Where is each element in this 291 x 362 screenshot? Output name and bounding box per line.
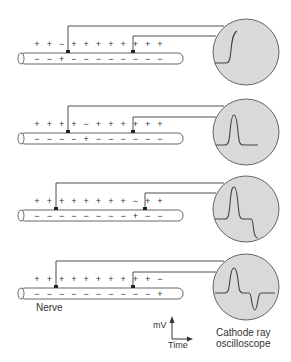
outside-charge: − <box>157 274 162 284</box>
x-axis-arrow-icon <box>187 337 193 342</box>
outside-charge: + <box>84 39 89 49</box>
electrode-1 <box>54 285 58 288</box>
inside-charge: − <box>108 211 113 221</box>
inside-charge: − <box>71 211 76 221</box>
outside-charge: + <box>108 119 113 129</box>
inside-charge: − <box>34 54 39 64</box>
outside-charge: + <box>34 119 39 129</box>
inside-charge: − <box>120 54 125 64</box>
inside-charge: − <box>84 289 89 299</box>
inside-charge: − <box>59 289 64 299</box>
outside-charge: + <box>96 274 101 284</box>
inside-charge: − <box>145 289 150 299</box>
outside-charge: + <box>71 274 76 284</box>
outside-charge: + <box>108 39 113 49</box>
outside-charge: + <box>47 39 52 49</box>
outside-charge: + <box>145 119 150 129</box>
inside-charge: − <box>71 134 76 144</box>
inside-charge: + <box>157 289 162 299</box>
outside-charge: + <box>120 39 125 49</box>
outside-charge: + <box>34 274 39 284</box>
outside-charge: + <box>157 39 162 49</box>
axis-y-label: mV <box>153 320 167 331</box>
electrode-2 <box>143 207 147 210</box>
inside-charge: − <box>145 134 150 144</box>
outside-charge: + <box>133 119 138 129</box>
outside-charge: + <box>84 274 89 284</box>
inside-charge: − <box>108 289 113 299</box>
inside-charge: + <box>59 54 64 64</box>
inside-charge: − <box>108 134 113 144</box>
outside-charge: − <box>84 119 89 129</box>
inside-charge: − <box>47 289 52 299</box>
inside-charge: − <box>84 211 89 221</box>
electrode-2 <box>131 50 135 53</box>
oscilloscope-screen <box>213 19 279 85</box>
outside-charge: + <box>145 274 150 284</box>
outside-charge: + <box>34 196 39 206</box>
electrode-1 <box>66 130 70 133</box>
outside-charge: + <box>157 119 162 129</box>
axis-x-label: Time <box>168 340 188 351</box>
inside-charge: − <box>133 54 138 64</box>
inside-charge: − <box>71 289 76 299</box>
panel-3: ++++++++−++ −−−−−−−−+−− <box>18 176 279 242</box>
outside-charge: + <box>34 39 39 49</box>
inside-charge: − <box>145 54 150 64</box>
outside-charges: ++++++++−++ <box>34 196 162 206</box>
inside-charge: + <box>84 134 89 144</box>
electrode-2 <box>131 285 135 288</box>
inside-charge: − <box>157 54 162 64</box>
inside-charge: − <box>120 289 125 299</box>
nerve-end <box>18 53 24 64</box>
inside-charge: − <box>120 211 125 221</box>
inside-charge: − <box>108 54 113 64</box>
outside-charge: + <box>120 274 125 284</box>
outside-charge: + <box>133 39 138 49</box>
inside-charge: − <box>120 134 125 144</box>
inside-charge: + <box>133 211 138 221</box>
outside-charge: + <box>96 39 101 49</box>
outside-charge: + <box>120 196 125 206</box>
outside-charges: ++−++++++++ <box>34 39 162 49</box>
inside-charge: − <box>71 54 76 64</box>
inside-charge: − <box>157 211 162 221</box>
nerve-end <box>18 133 24 144</box>
y-axis-arrow-icon <box>170 316 175 323</box>
panel-1: ++−++++++++ −−+−−−−−−−− <box>18 19 279 85</box>
outside-charge: + <box>108 196 113 206</box>
outside-charges: ++++−++++++ <box>34 119 162 129</box>
recording-wire-1 <box>56 183 224 208</box>
oscilloscope-label-line-2: oscilloscope <box>216 338 270 349</box>
outside-charge: + <box>133 274 138 284</box>
nerve-label: Nerve <box>36 302 63 313</box>
inside-charge: − <box>133 289 138 299</box>
inside-charge: − <box>59 134 64 144</box>
outside-charge: − <box>133 196 138 206</box>
oscilloscope-screen <box>213 176 279 242</box>
oscilloscope-screen <box>213 254 279 320</box>
outside-charge: + <box>59 274 64 284</box>
inside-charge: − <box>157 134 162 144</box>
outside-charge: + <box>145 39 150 49</box>
electrode-1 <box>54 207 58 210</box>
outside-charge: + <box>108 274 113 284</box>
outside-charge: + <box>59 119 64 129</box>
oscilloscope-label-line-1: Cathode ray <box>216 327 270 338</box>
outside-charge: + <box>71 39 76 49</box>
inside-charge: − <box>96 54 101 64</box>
inside-charge: − <box>84 54 89 64</box>
nerve-end <box>18 210 24 221</box>
outside-charges: ++++++++++− <box>34 274 162 284</box>
inside-charge: − <box>34 211 39 221</box>
outside-charge: + <box>84 196 89 206</box>
inside-charge: − <box>145 211 150 221</box>
outside-charge: + <box>145 196 150 206</box>
outside-charge: + <box>71 119 76 129</box>
panel-2: ++++−++++++ −−−−+−−−−−− <box>18 99 279 165</box>
nerve-end <box>18 288 24 299</box>
inside-charge: − <box>96 211 101 221</box>
oscilloscope-label: Cathode ray oscilloscope <box>216 327 270 349</box>
inside-charge: − <box>47 134 52 144</box>
inside-charge: − <box>59 211 64 221</box>
